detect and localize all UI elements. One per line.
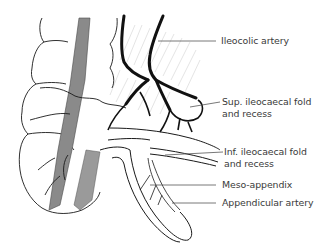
label-text: Ileocolic artery	[221, 35, 289, 46]
label-ileocolic-artery: Ileocolic artery	[221, 35, 289, 47]
ileocolic-branches	[108, 92, 203, 132]
taenia-lower-band	[74, 150, 100, 210]
label-text-line-1: Inf. ileocaecal fold	[224, 146, 307, 158]
ileum	[108, 128, 220, 166]
label-sup-ileocaecal-fold: Sup. ileocaecal fold and recess	[222, 96, 311, 120]
label-text-line-2: and recess	[224, 158, 307, 170]
leader-lines	[150, 41, 223, 203]
label-meso-appendix: Meso-appendix	[222, 179, 292, 191]
label-text-line-2: and recess	[222, 108, 311, 120]
anatomy-figure: Ileocolic artery Sup. ileocaecal fold an…	[0, 0, 318, 248]
label-text: Appendicular artery	[222, 197, 313, 208]
label-text-line-1: Sup. ileocaecal fold	[222, 96, 311, 108]
label-appendicular-artery: Appendicular artery	[222, 197, 313, 209]
label-inf-ileocaecal-fold: Inf. ileocaecal fold and recess	[224, 146, 307, 170]
label-text: Meso-appendix	[222, 179, 292, 190]
appendix	[100, 147, 192, 242]
